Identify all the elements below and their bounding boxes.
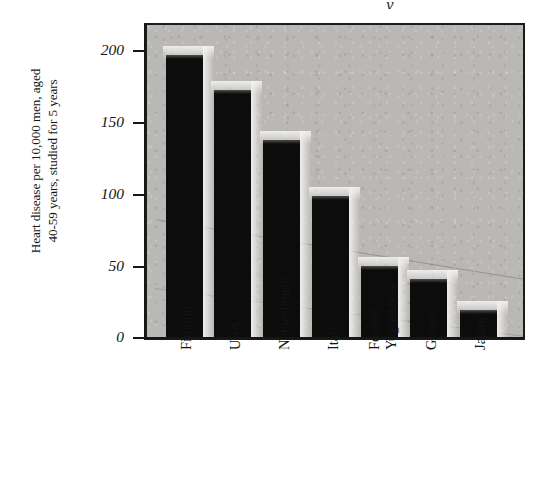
x-tick-label-japan-text: Japan [472,317,488,350]
x-tick-label-former-yugoslavia-line-1: Former [366,307,382,350]
y-axis-label-line-1: Heart disease per 10,000 men, aged [27,69,44,253]
x-tick-label-former-yugoslavia-line-2: Yugoslavia [383,220,400,350]
y-tick-mark-150 [133,122,145,124]
x-tick-label-italy: Italy [325,220,345,350]
y-tick-label-200: 200 [78,42,124,58]
x-tick-label-netherlands-text: Netherlansds [276,274,292,350]
cropped-title-fragment: y [386,0,397,9]
x-tick-label-usa: USA [227,220,247,350]
x-tick-label-japan: Japan [472,220,492,350]
y-tick-label-100: 100 [78,186,124,202]
y-tick-label-0: 0 [78,329,124,345]
x-tick-label-greece: Greece [423,220,443,350]
y-tick-mark-100 [133,194,145,196]
x-tick-label-italy-text: Italy [325,323,341,350]
x-tick-label-finland-text: Finland [178,306,194,350]
bar-chart-figure: y Heart disease per 10,000 men, aged 40-… [0,0,548,478]
y-tick-mark-200 [133,50,145,52]
x-tick-label-greece-text: Greece [423,309,439,350]
x-tick-label-finland: Finland [178,220,198,350]
y-axis-label: Heart disease per 10,000 men, aged 40-59… [26,51,62,271]
x-tick-label-former-yugoslavia: Former Yugoslavia [366,220,402,350]
y-tick-label-150: 150 [78,114,124,130]
y-tick-label-50: 50 [78,258,124,274]
y-axis-label-line-2: 40-59 years, studied for 5 years [44,79,61,242]
x-tick-label-netherlands: Netherlansds [276,220,296,350]
y-tick-mark-50 [133,266,145,268]
x-tick-label-usa-text: USA [227,321,243,350]
